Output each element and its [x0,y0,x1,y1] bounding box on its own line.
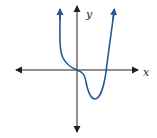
polynomial-curve [60,12,114,99]
coordinate-graph: x y [0,0,157,138]
curve-right-arrow-icon [113,9,114,20]
x-axis-label: x [143,66,150,79]
y-axis-label: y [85,8,93,21]
